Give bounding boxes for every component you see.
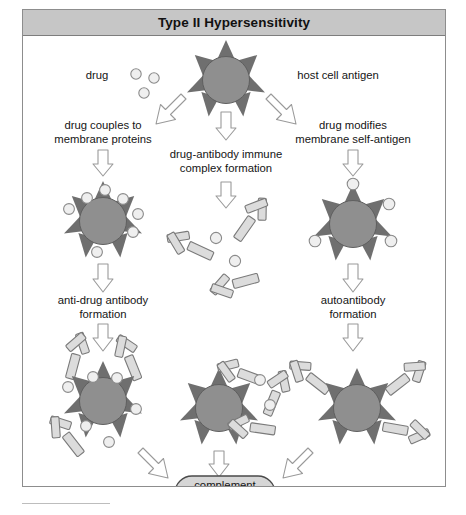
figure-panel: Type II Hypersensitivity drug [22,9,446,487]
pathway-diagram-footer: cell destruction [23,36,445,486]
footer-rule [22,503,110,504]
figure-root: Type II Hypersensitivity drug [0,0,466,515]
figure-title-bar: Type II Hypersensitivity [23,10,445,36]
page-title: Type II Hypersensitivity [158,15,310,30]
diagram-stage: drug [23,36,445,486]
